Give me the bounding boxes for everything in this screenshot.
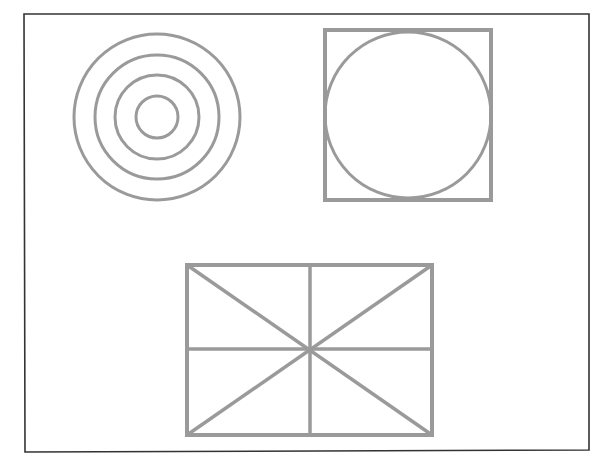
concentric-circle-4 <box>136 96 178 138</box>
concentric-circle-1 <box>74 34 240 200</box>
concentric-circles <box>74 34 240 200</box>
divided-rectangle <box>187 265 432 435</box>
square-with-inscribed-circle <box>325 30 491 200</box>
diagram-canvas <box>0 0 606 470</box>
inscribed-circle <box>325 32 491 198</box>
concentric-circle-3 <box>115 75 199 159</box>
